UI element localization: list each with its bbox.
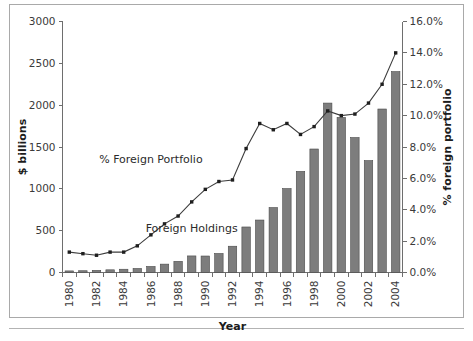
bar <box>242 227 250 273</box>
y2-axis-tick-label: 4.0% <box>410 203 437 215</box>
y-axis-tick-label: 1500 <box>29 141 56 153</box>
annotation-percent-foreign-portfolio: % Foreign Portfolio <box>99 153 203 166</box>
bar <box>106 270 114 273</box>
bar <box>79 271 87 273</box>
line-marker <box>326 109 329 112</box>
line-marker <box>190 200 193 203</box>
y-axis-tick-label: 2500 <box>29 57 56 69</box>
x-axis-tick-label: 1986 <box>145 280 157 307</box>
bar <box>133 268 141 272</box>
y2-axis-tick-label: 2.0% <box>410 235 437 247</box>
y2-axis-tick-label: 0.0% <box>410 266 437 278</box>
y2-axis-tick-label: 14.0% <box>410 46 443 58</box>
line-marker <box>176 214 179 217</box>
annotation-foreign-holdings: Foreign Holdings <box>146 222 238 235</box>
y2-axis-tick-label: 16.0% <box>410 15 443 27</box>
x-axis-tick-label: 1994 <box>253 280 265 307</box>
bar <box>269 208 277 273</box>
y-axis-tick-label: 500 <box>35 224 55 236</box>
bar <box>255 220 263 272</box>
line-marker <box>231 178 234 181</box>
x-axis-tick-label: 1982 <box>90 281 102 308</box>
bar <box>201 256 209 272</box>
y2-axis-tick-label: 12.0% <box>410 78 443 90</box>
bar <box>283 189 291 273</box>
bar <box>119 269 127 272</box>
bar <box>147 266 155 272</box>
bar <box>65 271 73 273</box>
x-axis-tick-label: 2000 <box>335 281 347 308</box>
bar <box>391 72 399 273</box>
line-marker <box>244 147 247 150</box>
line-marker <box>340 114 343 117</box>
x-axis-tick-label: 1992 <box>226 281 238 308</box>
line-marker <box>108 250 111 253</box>
line-marker <box>285 122 288 125</box>
bar-series <box>65 72 400 273</box>
bar <box>323 103 331 272</box>
y2-axis-title: % foreign portfolio <box>441 88 454 205</box>
bar <box>337 117 345 272</box>
bar <box>351 138 359 273</box>
line-marker <box>299 133 302 136</box>
x-axis-tick-label: 1980 <box>63 281 75 308</box>
line-marker <box>68 250 71 253</box>
line-marker <box>81 252 84 255</box>
line-marker <box>394 51 397 54</box>
dual-axis-chart: 0500100015002000250030000.0%2.0%4.0%6.0%… <box>0 0 473 341</box>
bar <box>174 261 182 272</box>
line-marker <box>258 122 261 125</box>
bar <box>364 161 372 273</box>
line-marker <box>312 125 315 128</box>
y-axis-title: $ billions <box>16 118 29 175</box>
x-axis-tick-label: 1984 <box>117 280 129 307</box>
bar <box>215 254 223 273</box>
line-marker <box>367 101 370 104</box>
x-axis-tick-label: 2004 <box>389 280 401 307</box>
line-marker <box>217 180 220 183</box>
bar <box>296 171 304 272</box>
line-marker <box>136 244 139 247</box>
line-marker <box>353 112 356 115</box>
line-marker <box>380 83 383 86</box>
y-axis-tick-label: 1000 <box>29 182 56 194</box>
line-marker <box>272 128 275 131</box>
line-marker <box>95 254 98 257</box>
x-axis-tick-label: 1990 <box>199 281 211 308</box>
y2-axis-tick-label: 10.0% <box>410 109 443 121</box>
x-axis-tick-label: 1996 <box>281 280 293 307</box>
x-axis-tick-label: 2002 <box>362 281 374 308</box>
x-axis-title: Year <box>218 320 247 333</box>
y2-axis-tick-label: 8.0% <box>410 141 437 153</box>
y2-axis-tick-label: 6.0% <box>410 172 437 184</box>
y-axis-tick-label: 3000 <box>29 15 56 27</box>
bar <box>228 246 236 272</box>
line-marker <box>204 188 207 191</box>
bar <box>160 264 168 272</box>
bar <box>378 109 386 272</box>
bar <box>310 149 318 272</box>
bar <box>187 256 195 273</box>
x-axis-tick-label: 1988 <box>172 281 184 308</box>
chart-figure: 0500100015002000250030000.0%2.0%4.0%6.0%… <box>0 0 473 341</box>
x-axis-tick-label: 1998 <box>308 281 320 308</box>
y-axis-tick-label: 0 <box>49 266 56 278</box>
line-marker <box>122 250 125 253</box>
y-axis-tick-label: 2000 <box>29 99 56 111</box>
bar <box>92 270 100 272</box>
